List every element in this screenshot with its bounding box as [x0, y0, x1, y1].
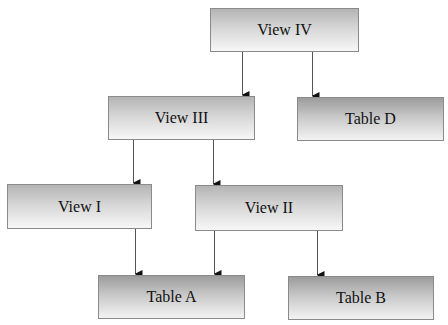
- node-label: Table A: [147, 288, 197, 306]
- node-label: Table D: [345, 110, 396, 128]
- edge-group: [134, 52, 318, 275]
- node-view-ii: View II: [195, 185, 343, 231]
- node-view-iv: View IV: [210, 8, 359, 52]
- node-view-i: View I: [7, 184, 152, 229]
- node-table-b: Table B: [288, 276, 434, 320]
- node-label: Table B: [336, 289, 386, 307]
- node-label: View IV: [257, 21, 312, 39]
- node-label: View I: [58, 198, 101, 216]
- node-label: View II: [245, 199, 293, 217]
- node-table-d: Table D: [297, 97, 444, 141]
- node-table-a: Table A: [98, 275, 245, 319]
- node-view-iii: View III: [108, 96, 255, 140]
- node-label: View III: [155, 109, 209, 127]
